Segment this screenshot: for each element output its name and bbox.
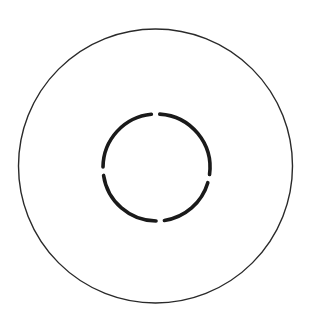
background [0, 0, 313, 323]
concentric-circles-diagram [0, 0, 313, 323]
